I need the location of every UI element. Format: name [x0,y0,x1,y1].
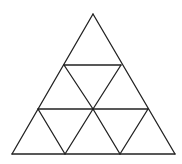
segment-upper-down-right [93,65,121,109]
segment-outer-right [93,14,175,154]
segment-lower-left-down-left [38,109,65,154]
segment-lower-right-down-right [120,109,148,154]
segment-lower-left-down-right [65,109,93,154]
segment-upper-down-left [64,65,93,109]
subdivided-triangle-diagram [0,0,182,164]
segment-lower-right-down-left [93,109,120,154]
